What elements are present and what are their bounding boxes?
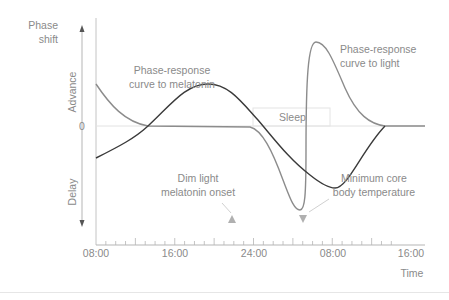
advance-arrow-icon — [80, 25, 85, 32]
x-tick-label-1600: 16:00 — [162, 247, 188, 259]
light-curve-label-line1: Phase-response — [340, 43, 417, 55]
x-tick-label-0800: 08:00 — [83, 247, 109, 259]
melatonin-curve-label-line2: curve to melatonin — [129, 78, 215, 90]
x-axis-ticks — [106, 238, 391, 245]
dlmo-leader-line — [222, 203, 231, 213]
dlmo-label-line1: Dim light — [178, 172, 219, 184]
delay-label: Delay — [66, 178, 78, 206]
sleep-label: Sleep — [279, 111, 306, 123]
advance-label: Advance — [66, 71, 78, 112]
y-axis-title-line2: shift — [39, 33, 58, 45]
x-axis-title: Time — [401, 267, 424, 279]
melatonin-curve-label-line1: Phase-response — [134, 64, 211, 76]
x-tick-label-2400: 24:00 — [241, 247, 267, 259]
phase-response-diagram: Phase shift Advance Delay 0 Sleep 08:00 … — [0, 0, 449, 300]
min-cbt-label-line1: Minimum core — [341, 172, 407, 184]
delay-arrow-icon — [80, 220, 85, 227]
dlmo-label-line2: melatonin onset — [161, 186, 235, 198]
dlmo-marker-up-triangle-icon — [228, 215, 236, 223]
min-cbt-label-line2: body temperature — [333, 186, 415, 198]
light-curve-label-line2: curve to light — [340, 57, 400, 69]
y-axis-title-line1: Phase — [28, 19, 58, 31]
zero-label: 0 — [79, 120, 85, 132]
x-tick-label-0800-next: 08:00 — [320, 247, 346, 259]
min-cbt-leader-line — [309, 199, 329, 212]
min-cbt-marker-down-triangle-icon — [299, 215, 307, 223]
bottom-divider — [0, 292, 449, 293]
x-tick-label-1600-next: 16:00 — [398, 247, 424, 259]
